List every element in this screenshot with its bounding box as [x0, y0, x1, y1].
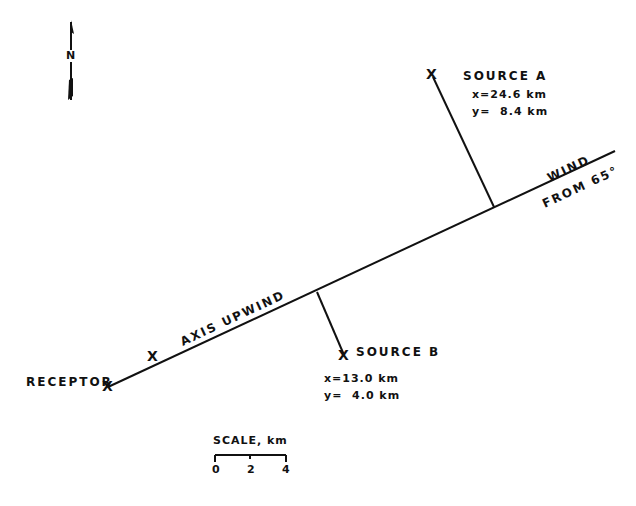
- north-label: N: [66, 50, 75, 62]
- source-b-y: y= 4.0 km: [324, 387, 400, 404]
- axis-marker: X: [147, 348, 158, 364]
- scale-bar: [215, 455, 286, 462]
- source-b-label: SOURCE B: [356, 345, 440, 359]
- receptor-label: RECEPTOR: [26, 375, 113, 389]
- scale-title: SCALE, km: [213, 434, 288, 447]
- source-b-marker: X: [338, 347, 349, 363]
- source-b-x: x=13.0 km: [324, 370, 399, 387]
- source-b-perpendicular: [317, 292, 344, 355]
- scale-tick-0: 0: [212, 463, 220, 476]
- source-a-y: y= 8.4 km: [472, 103, 548, 120]
- source-a-marker: X: [426, 66, 437, 82]
- source-a-x: x=24.6 km: [472, 86, 547, 103]
- receptor-marker: X: [102, 378, 113, 394]
- source-a-label: SOURCE A: [463, 69, 547, 83]
- scale-tick-2: 2: [247, 463, 255, 476]
- scale-tick-4: 4: [282, 463, 290, 476]
